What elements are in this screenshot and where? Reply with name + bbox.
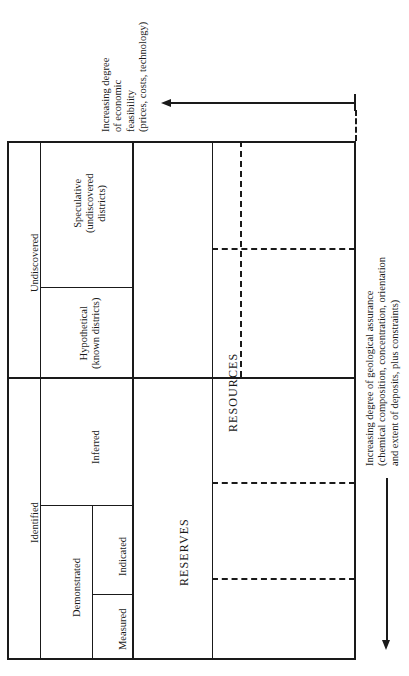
undiscovered-identified-divider <box>7 377 355 379</box>
cell-label-inferred: Inferred <box>90 430 102 464</box>
cell-label-undiscovered: Undiscovered <box>29 234 41 292</box>
hypothetical-line-2: (known districts) <box>90 298 102 369</box>
geological-assurance-arrow-head <box>382 640 390 650</box>
undiscovered-economic-dash <box>212 248 355 250</box>
econ-axis-line-4: (prices, costs, technology) <box>137 22 149 132</box>
undiscovered-subeconomic-dash <box>240 141 242 377</box>
speculative-line-1: Speculative <box>72 174 84 233</box>
speculative-line-3: districts) <box>96 174 108 233</box>
economic-band-rule <box>212 141 213 659</box>
box-right-border <box>354 141 356 660</box>
page-header-ghost <box>0 0 409 14</box>
indicated-measured-divider <box>92 594 133 595</box>
box-top-border <box>7 141 356 143</box>
inferred-demonstrated-divider <box>40 505 133 506</box>
band-label-reserves: RESERVES <box>178 518 192 586</box>
speculative-line-2: (undiscovered <box>84 174 96 233</box>
economic-feasibility-arrow-tick <box>354 94 356 111</box>
econ-axis-line-1: Increasing degree <box>100 22 112 132</box>
geological-assurance-axis-label: Increasing degree of geological assuranc… <box>364 257 401 466</box>
box-bottom-border <box>7 658 356 660</box>
econ-axis-line-3: feasibility <box>125 22 137 132</box>
band-label-resources: RESOURCES <box>227 353 241 432</box>
econ-axis-line-2: of economic <box>112 22 124 132</box>
identified-economic-dash-lower <box>212 578 355 580</box>
geo-axis-line-3: and extent of deposits, plus constraints… <box>389 257 401 466</box>
geological-assurance-arrow-shaft <box>386 478 388 643</box>
diagram-canvas: Increasing degree of economic feasibilit… <box>0 0 409 676</box>
economic-axis-connector-dash <box>355 110 357 141</box>
economic-feasibility-arrow-shaft <box>171 102 355 104</box>
geo-axis-line-2: (chemical composition, concentration, or… <box>376 257 388 466</box>
subcell-column-rule <box>132 141 134 659</box>
speculative-hypothetical-divider <box>40 287 133 288</box>
identified-economic-dash-upper <box>212 482 355 484</box>
box-left-border <box>7 141 9 660</box>
cell-label-hypothetical: Hypothetical (known districts) <box>78 298 102 369</box>
cell-label-indicated: Indicated <box>117 537 129 576</box>
cell-label-speculative: Speculative (undiscovered districts) <box>72 174 108 233</box>
cell-label-measured: Measured <box>117 609 129 650</box>
hypothetical-line-1: Hypothetical <box>78 298 90 369</box>
cell-label-identified: Identified <box>29 502 41 543</box>
economic-feasibility-arrow-head <box>161 99 171 107</box>
geo-axis-line-1: Increasing degree of geological assuranc… <box>364 257 376 466</box>
group-label-column-rule <box>40 141 41 659</box>
cell-label-demonstrated: Demonstrated <box>71 558 83 617</box>
economic-feasibility-axis-label: Increasing degree of economic feasibilit… <box>100 22 150 132</box>
demonstrated-inner-rule <box>92 505 93 659</box>
